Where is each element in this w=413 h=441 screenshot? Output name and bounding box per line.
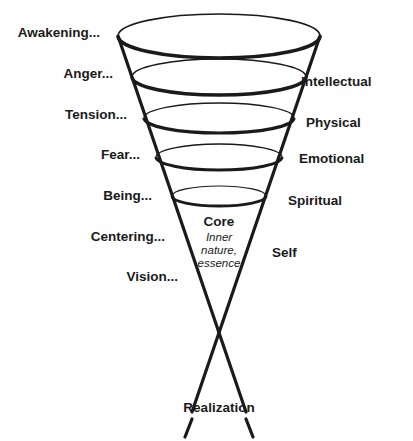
core-label-block: Core Inner nature, essence bbox=[198, 215, 241, 269]
core-subtitle-line-1: Inner bbox=[198, 231, 241, 244]
label-vision: Vision... bbox=[126, 270, 178, 284]
core-subtitle: Inner nature, essence bbox=[198, 231, 241, 270]
label-intellectual: Intellectual bbox=[301, 75, 372, 89]
ring-4-front bbox=[156, 157, 282, 170]
label-physical: Physical bbox=[306, 116, 361, 130]
label-being: Being... bbox=[103, 189, 152, 203]
ring-3-front bbox=[144, 118, 294, 133]
ring-4-back bbox=[156, 144, 282, 157]
ring-5-back bbox=[172, 186, 266, 196]
ring-4 bbox=[156, 144, 282, 170]
ring-2-back bbox=[132, 59, 306, 77]
label-centering: Centering... bbox=[91, 230, 165, 244]
label-fear: Fear... bbox=[101, 148, 140, 162]
label-self: Self bbox=[272, 246, 297, 260]
tail-dash-left bbox=[185, 419, 192, 437]
ring-3 bbox=[144, 103, 294, 133]
label-emotional: Emotional bbox=[299, 152, 364, 166]
label-anger: Anger... bbox=[63, 67, 113, 81]
label-awakening: Awakening... bbox=[18, 26, 100, 40]
label-spiritual: Spiritual bbox=[288, 194, 342, 208]
ring-3-back bbox=[144, 103, 294, 118]
ring-1 bbox=[118, 14, 320, 58]
ring-5-front bbox=[172, 196, 266, 206]
tail-dashes bbox=[185, 419, 253, 437]
ring-2 bbox=[132, 59, 306, 95]
ring-2-front bbox=[132, 77, 306, 95]
label-realization: Realization bbox=[183, 401, 254, 415]
core-subtitle-line-2: nature, bbox=[198, 244, 241, 257]
label-tension: Tension... bbox=[65, 108, 127, 122]
ring-1-back bbox=[118, 14, 320, 36]
ring-5 bbox=[172, 186, 266, 206]
funnel-diagram: Awakening... Anger... Tension... Fear...… bbox=[0, 0, 413, 441]
ring-1-front bbox=[118, 36, 320, 58]
tail-dash-right bbox=[246, 419, 253, 437]
core-subtitle-line-3: essence bbox=[198, 257, 241, 270]
core-title: Core bbox=[198, 215, 241, 230]
